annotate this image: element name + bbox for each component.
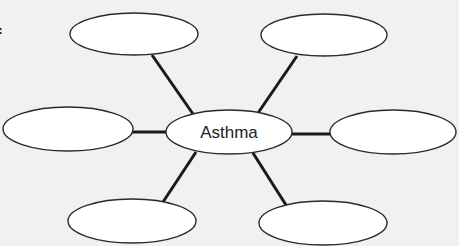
node-left[interactable] <box>3 107 133 151</box>
node-bottom-left[interactable] <box>68 199 196 243</box>
link-top-right <box>258 56 297 113</box>
link-bottom-left <box>163 152 196 202</box>
link-bottom-right <box>253 153 286 205</box>
link-top-left <box>152 55 193 114</box>
node-top-left[interactable] <box>70 13 198 55</box>
node-right[interactable] <box>330 110 456 154</box>
center-label: Asthma <box>200 123 258 142</box>
web-diagram: Asthma <box>0 0 459 246</box>
node-bottom-right[interactable] <box>259 201 387 245</box>
node-top-right[interactable] <box>261 14 387 56</box>
